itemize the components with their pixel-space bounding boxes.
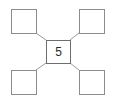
connector-bottom-left-line [36, 63, 46, 70]
connector-top-left-line [36, 33, 46, 40]
bottom-right-node[interactable] [80, 71, 105, 95]
connector-bottom-right-line [70, 63, 79, 70]
center-node-label: 5 [55, 45, 62, 59]
top-left-node[interactable] [12, 10, 37, 34]
diagram-canvas: 5 [0, 0, 115, 101]
connector-top-right-line [70, 33, 79, 40]
top-right-node[interactable] [80, 10, 105, 34]
bottom-left-node[interactable] [12, 71, 37, 95]
node-diagram: 5 [0, 0, 115, 101]
